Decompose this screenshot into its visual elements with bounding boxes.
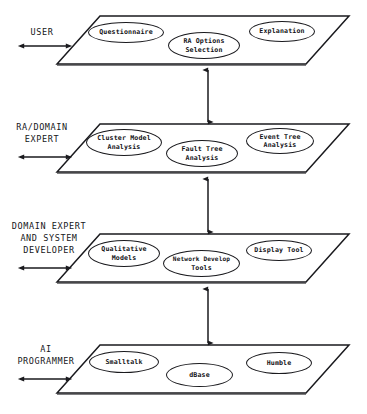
role-label-ra-domain-expert-line-1: EXPERT <box>0 133 84 145</box>
node-humble-label: Humble <box>250 359 308 367</box>
node-questionnaire[interactable]: Questionnaire <box>88 22 164 43</box>
role-label-user: USER <box>4 26 80 38</box>
role-label-domain-expert-system-developer-line-0: DOMAIN EXPERT <box>0 220 98 232</box>
node-dbase-label: dBase <box>170 371 229 379</box>
node-event-tree-analysis-label-line-1: Analysis <box>250 141 310 149</box>
node-explanation-label: Explanation <box>253 27 311 35</box>
node-ra-options-selection-label-line-0: RA Options <box>172 37 236 45</box>
node-qualitative-models-label-line-1: Models <box>92 254 156 262</box>
node-display-tool-label: Display Tool <box>250 246 308 254</box>
role-label-ai-programmer-line-1: PROGRAMMER <box>0 355 92 367</box>
node-qualitative-models[interactable]: Qualitative Models <box>88 240 160 267</box>
role-label-ai-programmer-line-0: AI <box>0 343 92 355</box>
node-fault-tree-analysis-label-line-0: Fault Tree <box>170 145 234 153</box>
node-cluster-model-analysis-label-line-1: Analysis <box>90 143 158 151</box>
node-network-develop-tools-label-line-1: Tools <box>167 264 236 272</box>
role-label-domain-expert-system-developer: DOMAIN EXPERT AND SYSTEM DEVELOPER <box>0 220 98 256</box>
node-ra-options-selection-label-line-1: Selection <box>172 46 236 54</box>
role-label-domain-expert-system-developer-line-2: DEVELOPER <box>0 244 98 256</box>
node-questionnaire-label: Questionnaire <box>92 28 160 36</box>
node-ra-options-selection[interactable]: RA Options Selection <box>168 32 240 59</box>
role-label-ra-domain-expert: RA/DOMAIN EXPERT <box>0 121 84 145</box>
node-dbase[interactable]: dBase <box>166 363 233 387</box>
node-display-tool[interactable]: Display Tool <box>246 240 312 261</box>
layered-architecture-diagram: USER Questionnaire RA Options Selection … <box>0 0 367 414</box>
node-cluster-model-analysis-label-line-0: Cluster Model <box>90 134 158 142</box>
node-cluster-model-analysis[interactable]: Cluster Model Analysis <box>86 129 162 156</box>
node-explanation[interactable]: Explanation <box>249 21 315 42</box>
node-fault-tree-analysis-label-line-1: Analysis <box>170 154 234 162</box>
node-event-tree-analysis[interactable]: Event Tree Analysis <box>246 128 314 154</box>
node-fault-tree-analysis[interactable]: Fault Tree Analysis <box>166 140 238 167</box>
node-network-develop-tools-label-line-0: Network Develop <box>167 255 236 263</box>
node-network-develop-tools[interactable]: Network Develop Tools <box>163 250 240 277</box>
node-event-tree-analysis-label-line-0: Event Tree <box>250 133 310 141</box>
node-humble[interactable]: Humble <box>246 352 312 374</box>
node-qualitative-models-label-line-0: Qualitative <box>92 245 156 253</box>
role-label-ai-programmer: AI PROGRAMMER <box>0 343 92 367</box>
node-smalltalk-label: Smalltalk <box>93 358 155 366</box>
role-label-user-line-0: USER <box>4 26 80 38</box>
role-label-ra-domain-expert-line-0: RA/DOMAIN <box>0 121 84 133</box>
role-label-domain-expert-system-developer-line-1: AND SYSTEM <box>0 232 98 244</box>
node-smalltalk[interactable]: Smalltalk <box>89 351 159 373</box>
